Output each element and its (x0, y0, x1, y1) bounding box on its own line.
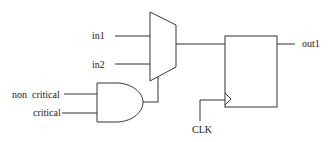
label-clk: CLK (192, 124, 213, 135)
multiplexer (150, 12, 176, 81)
label-out1: out1 (302, 38, 320, 49)
and-gate (97, 83, 143, 122)
label-in2: in2 (92, 59, 105, 70)
label-in1: in1 (92, 30, 105, 41)
label-non-critical: non critical (12, 89, 60, 100)
output-out1: out1 (277, 38, 320, 49)
flip-flop (225, 36, 277, 107)
circuit-diagram: in1 in2 out1 CLK non critical critical (0, 0, 334, 142)
input-non-critical: non critical (12, 89, 97, 100)
input-critical: critical (33, 107, 97, 118)
label-critical: critical (33, 107, 61, 118)
input-in1: in1 (92, 30, 150, 41)
input-in2: in2 (92, 59, 150, 70)
wire-clk (200, 100, 225, 121)
input-clk: CLK (192, 100, 225, 135)
